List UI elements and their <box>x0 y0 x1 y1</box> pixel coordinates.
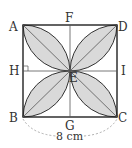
geometry-diagram: A F D H I E B G C 8 cm <box>0 0 132 148</box>
label-e: E <box>69 71 78 85</box>
label-h: H <box>9 64 19 78</box>
label-a: A <box>8 20 18 34</box>
dimension-label: 8 cm <box>56 130 84 143</box>
label-c: C <box>118 111 127 125</box>
label-d: D <box>118 20 128 34</box>
label-i: I <box>121 64 126 78</box>
label-b: B <box>9 111 18 125</box>
label-f: F <box>65 11 73 25</box>
right-angle-mark <box>23 66 28 71</box>
